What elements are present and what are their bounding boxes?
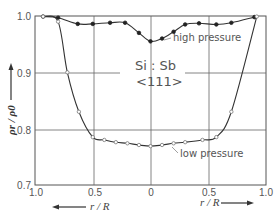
data-point <box>172 30 176 34</box>
data-point <box>126 142 129 145</box>
x-axis-label-left: r / R <box>52 200 110 212</box>
svg-text:r / R: r / R <box>200 196 220 208</box>
y-axis-label: ρr / ρ0 <box>5 63 17 136</box>
y-tick-0.9: 0.9 <box>17 68 31 79</box>
data-point <box>255 15 258 18</box>
data-point <box>149 40 153 44</box>
data-point <box>201 138 204 141</box>
data-point <box>108 21 112 25</box>
data-point <box>215 135 218 138</box>
high-pressure-label: high pressure <box>173 32 241 43</box>
data-point <box>41 15 44 18</box>
material-label: Si : Sb <box>135 58 176 73</box>
data-point <box>137 31 141 35</box>
data-point <box>123 21 127 25</box>
x-tick-right-1.0: 1.0 <box>259 187 273 198</box>
data-point <box>230 110 233 113</box>
arrow-left-icon <box>52 205 59 210</box>
data-point <box>103 138 106 141</box>
arrow-up-icon <box>9 63 14 70</box>
data-point <box>149 144 152 147</box>
x-tick-left-1.0: 1.0 <box>29 187 43 198</box>
x-tick-0: 0 <box>148 187 154 198</box>
data-point <box>183 140 186 143</box>
data-point <box>91 22 95 26</box>
svg-text:r / R: r / R <box>90 200 110 212</box>
data-point <box>114 140 117 143</box>
low-pressure-label: low pressure <box>180 148 243 159</box>
data-point <box>160 37 164 41</box>
data-point <box>66 71 69 74</box>
x-tick-left-0.5: 0.5 <box>88 187 102 198</box>
chart: 1.0 0.9 0.8 0.7 1.0 0.5 0 0.5 1.0 r / R … <box>0 0 276 217</box>
x-axis-label-right: r / R <box>200 196 254 208</box>
svg-text:ρr / ρ0: ρr / ρ0 <box>5 105 17 136</box>
data-point <box>215 23 219 27</box>
data-point <box>77 110 80 113</box>
y-tick-0.8: 0.8 <box>17 125 31 136</box>
data-point <box>183 23 187 27</box>
data-point <box>91 135 94 138</box>
arrow-right-icon <box>247 201 254 206</box>
data-point <box>160 143 163 146</box>
data-point <box>137 143 140 146</box>
y-tick-1.0: 1.0 <box>17 11 31 22</box>
data-point <box>172 142 175 145</box>
data-point <box>197 22 201 26</box>
data-point <box>56 20 59 23</box>
data-point <box>76 22 80 26</box>
orientation-label: <111> <box>136 74 183 89</box>
data-point <box>230 21 234 25</box>
